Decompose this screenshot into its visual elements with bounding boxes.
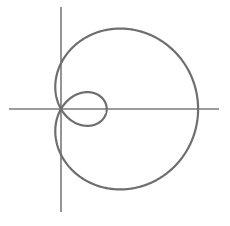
limacon-plot: [0, 0, 230, 226]
